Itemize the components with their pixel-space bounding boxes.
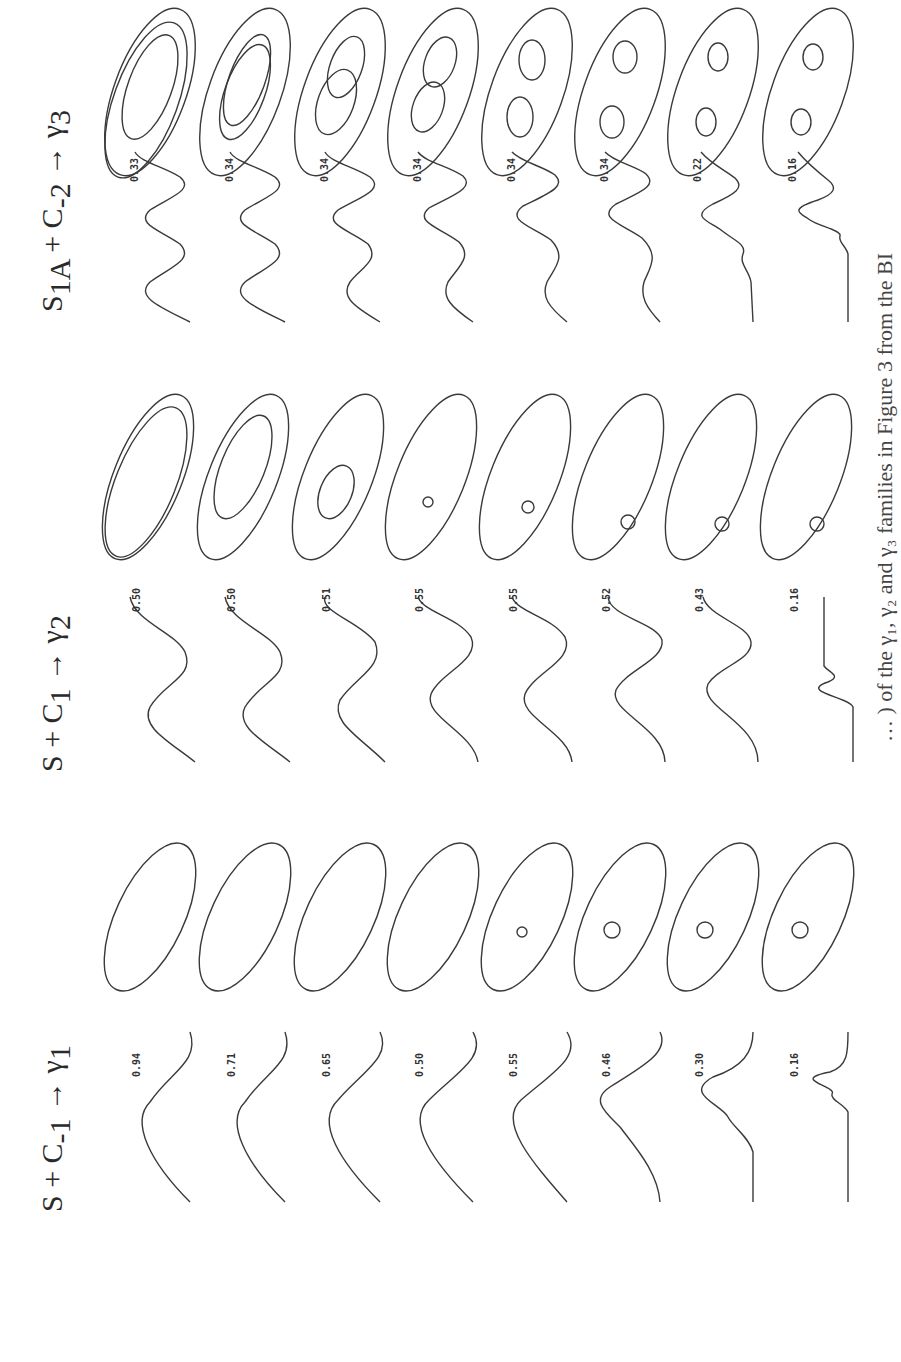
orbit — [369, 0, 497, 187]
orbit — [742, 383, 871, 572]
svg-text:0.55: 0.55 — [508, 588, 519, 612]
waveform — [329, 1032, 383, 1202]
orbit — [463, 0, 591, 187]
svg-text:0.33: 0.33 — [129, 158, 140, 182]
waveform — [135, 152, 190, 322]
waveform — [702, 1032, 753, 1202]
orbit — [180, 830, 309, 1004]
svg-text:0.65: 0.65 — [321, 1053, 332, 1077]
svg-text:0.34: 0.34 — [599, 158, 610, 182]
svg-text:0.52: 0.52 — [601, 588, 612, 612]
waveform — [703, 597, 758, 762]
orbit — [274, 383, 403, 572]
svg-text:S + C-1 → γ1: S + C-1 → γ1 — [35, 1045, 76, 1212]
waveform — [325, 597, 385, 762]
family-gamma2: 0.50 0.50 0.51 0.55 0.55 0.52 0.43 0.16 — [84, 383, 871, 762]
waveforms-gamma2: 0.50 0.50 0.51 0.55 0.55 0.52 0.43 0.16 — [130, 588, 853, 762]
header-gamma3: S1A + C-2 → γ3 — [35, 110, 76, 312]
figure-page: S + C-1 → γ1 S + C1 → γ2 S1A + C-2 → γ3 … — [0, 0, 901, 1362]
orbit — [554, 383, 683, 572]
orbits-gamma2 — [84, 383, 871, 572]
orbit — [649, 0, 777, 187]
orbit — [368, 830, 497, 1004]
svg-text:0.43: 0.43 — [694, 588, 705, 612]
svg-text:0.55: 0.55 — [508, 1053, 519, 1077]
orbit — [556, 0, 684, 187]
waveform — [608, 597, 665, 762]
waveform — [418, 152, 473, 322]
svg-text:0.50: 0.50 — [131, 588, 142, 612]
waveform — [418, 597, 478, 762]
svg-text:0.51: 0.51 — [321, 588, 332, 612]
waveform — [230, 152, 285, 322]
waveform — [237, 1032, 287, 1202]
svg-text:0.22: 0.22 — [692, 158, 703, 182]
waveforms-gamma1: 0.94 0.71 0.65 0.50 0.55 0.46 0.30 0.16 — [131, 1032, 848, 1202]
orbit — [461, 383, 590, 572]
orbit — [462, 830, 591, 1004]
orbit — [743, 830, 872, 1004]
waveform — [225, 597, 290, 762]
waveform — [513, 1032, 571, 1202]
orbit — [744, 0, 872, 187]
waveforms-gamma3: 0.33 0.34 0.34 0.34 0.34 0.34 0.22 0.16 — [129, 152, 848, 322]
orbit — [85, 830, 214, 1004]
waveform — [798, 152, 848, 322]
figure-caption: … ) of the γ₁, γ₂ and γ₃ families in Fig… — [872, 253, 897, 742]
svg-text:0.34: 0.34 — [506, 158, 517, 182]
orbits-gamma3 — [86, 0, 872, 188]
svg-text:0.30: 0.30 — [694, 1053, 705, 1077]
waveform — [130, 597, 195, 762]
orbit — [84, 383, 213, 572]
header-gamma1: S + C-1 → γ1 — [35, 1045, 76, 1212]
orbit — [555, 830, 684, 1004]
svg-text:0.55: 0.55 — [414, 588, 425, 612]
orbit — [367, 383, 496, 572]
orbit — [181, 0, 309, 187]
svg-text:0.94: 0.94 — [131, 1053, 142, 1077]
svg-text:0.46: 0.46 — [601, 1053, 612, 1077]
svg-text:0.34: 0.34 — [412, 158, 423, 182]
svg-text:0.16: 0.16 — [789, 1053, 800, 1077]
family-gamma1: 0.94 0.71 0.65 0.50 0.55 0.46 0.30 0.16 — [85, 830, 872, 1202]
waveform — [420, 1032, 476, 1202]
orbits-gamma1 — [85, 830, 872, 1004]
waveform — [819, 597, 853, 762]
svg-text:0.50: 0.50 — [226, 588, 237, 612]
orbit — [647, 383, 776, 572]
svg-text:0.16: 0.16 — [787, 158, 798, 182]
svg-text:S + C1 → γ2: S + C1 → γ2 — [35, 615, 76, 772]
waveform — [512, 597, 572, 762]
svg-text:0.16: 0.16 — [789, 588, 800, 612]
waveform — [512, 152, 567, 322]
svg-text:0.50: 0.50 — [414, 1053, 425, 1077]
waveform — [605, 152, 660, 322]
svg-text:0.34: 0.34 — [224, 158, 235, 182]
waveform — [142, 1032, 192, 1202]
orbit — [275, 830, 404, 1004]
header-gamma2: S + C1 → γ2 — [35, 615, 76, 772]
waveform — [325, 152, 380, 322]
svg-text:0.34: 0.34 — [319, 158, 330, 182]
svg-text:S1A + C-2 → γ3: S1A + C-2 → γ3 — [35, 110, 76, 312]
orbit — [276, 0, 404, 187]
orbit — [179, 383, 308, 572]
family-gamma3: 0.33 0.34 0.34 0.34 0.34 0.34 0.22 0.16 — [86, 0, 872, 322]
waveform — [701, 152, 753, 322]
svg-text:0.71: 0.71 — [226, 1053, 237, 1077]
waveform — [813, 1032, 848, 1202]
orbit — [648, 830, 777, 1004]
